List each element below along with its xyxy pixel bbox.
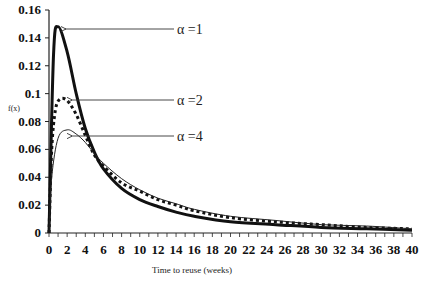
x-tick-label: 16 bbox=[188, 242, 202, 257]
annotation-label: α =2 bbox=[177, 93, 203, 108]
annotation-label: α =1 bbox=[177, 22, 203, 37]
x-tick-label: 2 bbox=[64, 242, 71, 257]
series-line bbox=[49, 26, 412, 233]
x-tick-label: 20 bbox=[224, 242, 237, 257]
y-tick-label: 0.04 bbox=[18, 169, 41, 184]
y-tick-label: 0.06 bbox=[18, 141, 41, 156]
y-tick-label: 0 bbox=[35, 225, 42, 240]
x-tick-label: 18 bbox=[206, 242, 220, 257]
axes: 00.020.040.060.080.10.120.140.1602468101… bbox=[18, 2, 418, 257]
x-tick-label: 36 bbox=[369, 242, 383, 257]
y-axis-label: f(x) bbox=[8, 104, 20, 113]
x-tick-label: 38 bbox=[387, 242, 401, 257]
x-tick-label: 14 bbox=[170, 242, 184, 257]
x-tick-label: 40 bbox=[406, 242, 419, 257]
x-tick-label: 0 bbox=[46, 242, 53, 257]
x-tick-label: 34 bbox=[351, 242, 365, 257]
y-tick-label: 0.08 bbox=[18, 114, 41, 129]
y-tick-label: 0.14 bbox=[18, 30, 41, 45]
x-tick-label: 6 bbox=[100, 242, 107, 257]
x-tick-label: 28 bbox=[297, 242, 311, 257]
series-line bbox=[49, 130, 412, 233]
x-tick-label: 10 bbox=[133, 242, 146, 257]
y-tick-label: 0.02 bbox=[18, 197, 41, 212]
x-axis-label: Time to reuse (weeks) bbox=[152, 265, 232, 275]
x-tick-label: 32 bbox=[333, 242, 346, 257]
y-tick-label: 0.1 bbox=[25, 86, 41, 101]
x-tick-label: 4 bbox=[82, 242, 89, 257]
annotation-label: α =4 bbox=[177, 129, 203, 144]
density-chart: 00.020.040.060.080.10.120.140.1602468101… bbox=[0, 0, 424, 282]
y-tick-label: 0.16 bbox=[18, 2, 41, 17]
y-tick-label: 0.12 bbox=[18, 58, 41, 73]
curves bbox=[49, 26, 412, 233]
x-tick-label: 30 bbox=[315, 242, 328, 257]
x-tick-label: 12 bbox=[151, 242, 164, 257]
x-tick-label: 8 bbox=[118, 242, 125, 257]
x-tick-label: 26 bbox=[278, 242, 292, 257]
series-line bbox=[49, 98, 412, 233]
x-tick-label: 24 bbox=[260, 242, 274, 257]
x-tick-label: 22 bbox=[242, 242, 255, 257]
